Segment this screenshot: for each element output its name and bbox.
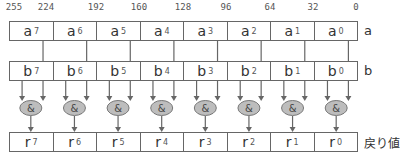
- r-cell: r0: [315, 133, 358, 151]
- cell-symbol: r: [286, 134, 292, 150]
- cell-symbol: b: [110, 63, 119, 79]
- cell-symbol: r: [155, 134, 161, 150]
- cell-symbol: b: [241, 63, 250, 79]
- cell-index: 0: [337, 138, 342, 147]
- bitwise-and-diagram: 255 224 192 160 128 96 64 32 0 &&&&&&&& …: [0, 0, 400, 157]
- cell-index: 3: [208, 67, 213, 76]
- b-cell: b5: [97, 62, 141, 80]
- cell-index: 4: [163, 138, 168, 147]
- operand-a-label: a: [364, 23, 372, 38]
- b-cell: b6: [54, 62, 98, 80]
- cell-index: 5: [120, 138, 125, 147]
- cell-index: 4: [165, 27, 170, 36]
- cell-index: 2: [252, 27, 257, 36]
- and-operator-icon: &: [282, 101, 304, 116]
- svg-text:&: &: [201, 103, 209, 114]
- cell-index: 2: [252, 67, 257, 76]
- cell-index: 0: [339, 67, 344, 76]
- and-operator-icon: &: [63, 101, 85, 116]
- cell-symbol: a: [67, 23, 76, 39]
- cell-symbol: r: [199, 134, 205, 150]
- cell-index: 2: [250, 138, 255, 147]
- and-operator-icon: &: [325, 101, 347, 116]
- and-operator-icon: &: [151, 101, 173, 116]
- r-cell: r2: [228, 133, 272, 151]
- r-cell: r4: [141, 133, 185, 151]
- cell-index: 7: [34, 67, 39, 76]
- b-cell: b7: [10, 62, 54, 80]
- and-operator-icon: &: [194, 101, 216, 116]
- a-cell: a6: [54, 22, 98, 40]
- r-cell: r1: [271, 133, 315, 151]
- return-value-label: 戻り値: [364, 134, 400, 151]
- cell-symbol: r: [25, 134, 31, 150]
- cell-symbol: r: [242, 134, 248, 150]
- cell-index: 3: [207, 138, 212, 147]
- cell-index: 1: [294, 138, 299, 147]
- a-cell: a2: [228, 22, 272, 40]
- a-cell: a4: [141, 22, 185, 40]
- and-operator-icon: &: [238, 101, 260, 116]
- cell-index: 7: [33, 138, 38, 147]
- cell-index: 1: [295, 67, 300, 76]
- svg-text:&: &: [289, 103, 297, 114]
- cell-symbol: b: [284, 63, 293, 79]
- cell-symbol: b: [23, 63, 32, 79]
- b-cell: b4: [141, 62, 185, 80]
- a-cell: a0: [315, 22, 358, 40]
- cell-index: 3: [208, 27, 213, 36]
- cell-symbol: b: [154, 63, 163, 79]
- cell-symbol: r: [112, 134, 118, 150]
- operand-b-register: b7b6b5b4b3b2b1b0: [9, 61, 358, 81]
- cell-symbol: a: [110, 23, 119, 39]
- cell-index: 6: [78, 27, 83, 36]
- svg-text:&: &: [27, 103, 35, 114]
- cell-symbol: a: [23, 23, 32, 39]
- r-cell: r6: [54, 133, 98, 151]
- svg-text:&: &: [158, 103, 166, 114]
- svg-text:&: &: [114, 103, 122, 114]
- a-cell: a1: [271, 22, 315, 40]
- cell-symbol: b: [67, 63, 76, 79]
- r-cell: r3: [184, 133, 228, 151]
- cell-index: 4: [165, 67, 170, 76]
- a-cell: a3: [184, 22, 228, 40]
- cell-index: 5: [121, 67, 126, 76]
- operand-a-register: a7a6a5a4a3a2a1a0: [9, 21, 358, 41]
- a-cell: a5: [97, 22, 141, 40]
- and-operator-icon: &: [20, 101, 42, 116]
- cell-index: 6: [78, 67, 83, 76]
- r-cell: r7: [10, 133, 54, 151]
- cell-symbol: a: [154, 23, 163, 39]
- b-cell: b2: [228, 62, 272, 80]
- cell-index: 7: [34, 27, 39, 36]
- cell-index: 5: [121, 27, 126, 36]
- svg-text:&: &: [245, 103, 253, 114]
- cell-symbol: b: [328, 63, 337, 79]
- cell-symbol: a: [284, 23, 293, 39]
- b-cell: b3: [184, 62, 228, 80]
- svg-text:&: &: [332, 103, 340, 114]
- cell-symbol: r: [329, 134, 335, 150]
- cell-symbol: a: [328, 23, 337, 39]
- cell-symbol: a: [241, 23, 250, 39]
- a-cell: a7: [10, 22, 54, 40]
- cell-symbol: r: [68, 134, 74, 150]
- b-cell: b0: [315, 62, 358, 80]
- operand-b-label: b: [364, 63, 372, 78]
- cell-index: 1: [295, 27, 300, 36]
- cell-index: 6: [76, 138, 81, 147]
- b-cell: b1: [271, 62, 315, 80]
- cell-symbol: b: [197, 63, 206, 79]
- result-register: r7r6r5r4r3r2r1r0: [9, 132, 358, 152]
- cell-index: 0: [339, 27, 344, 36]
- cell-symbol: a: [197, 23, 206, 39]
- svg-text:&: &: [71, 103, 79, 114]
- and-operator-icon: &: [107, 101, 129, 116]
- r-cell: r5: [97, 133, 141, 151]
